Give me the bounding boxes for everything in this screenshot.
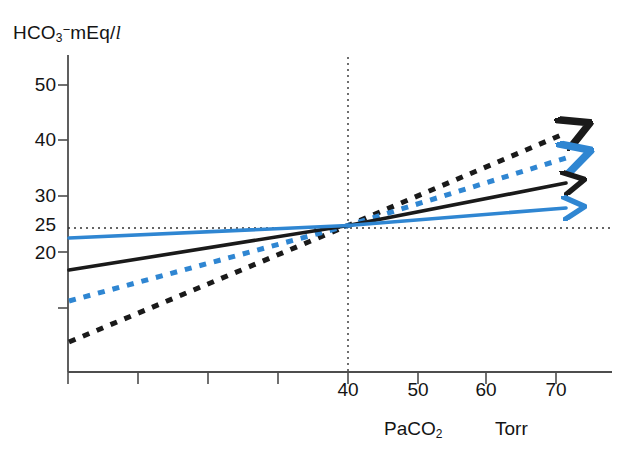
chart-figure: HCO3−mEq/l 50 40 30 25 20 40 50 60 70 Pa… <box>0 0 625 467</box>
series-chronic-respiratory-acidosis <box>69 133 566 342</box>
plot-area <box>0 0 625 467</box>
